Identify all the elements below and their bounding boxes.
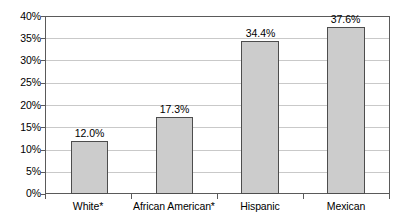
bar-value-label-african-american: 17.3% [144,104,205,115]
x-tickmark-4 [389,194,390,199]
bar-hispanic[interactable] [241,41,279,194]
bar-mexican[interactable] [327,27,365,194]
bar-value-label-hispanic: 34.4% [230,28,291,39]
x-tickmark-0 [45,194,46,199]
x-tickmark-2 [217,194,218,199]
x-axis: White* African American* Hispanic Mexica… [45,194,390,222]
x-tickmark-1 [131,194,132,199]
x-category-label-mexican: Mexican [303,200,389,212]
x-category-label-white: White* [45,200,131,212]
bars-layer: 12.0% 17.3% 34.4% 37.6% [0,0,406,222]
bar-value-label-mexican: 37.6% [315,14,376,25]
bar-value-label-white: 12.0% [59,128,120,139]
bar-african-american[interactable] [156,117,193,194]
x-category-label-african-american: African American* [131,200,217,212]
bar-white[interactable] [71,141,108,194]
bar-chart: 40% 35% 30% 25% 20% 15% 10% 5% 0% 12.0% … [0,0,406,222]
x-category-label-hispanic: Hispanic [217,200,303,212]
x-tickmark-3 [303,194,304,199]
